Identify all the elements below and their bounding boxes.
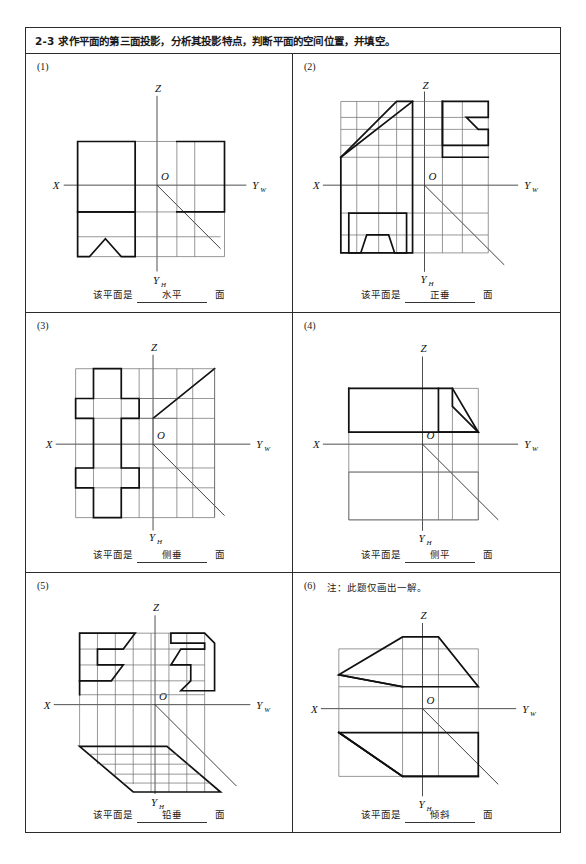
axis-label-yw: Y — [256, 438, 264, 450]
answer-suffix: 面 — [215, 807, 225, 821]
answer-suffix: 面 — [483, 807, 493, 821]
axis-label-x: X — [312, 438, 321, 450]
axis-label-z: Z — [421, 343, 428, 355]
projection-drawing-6: X Z O Y W Y H — [293, 573, 560, 832]
axis-label-x: X — [45, 438, 54, 450]
axis-label-x: X — [310, 702, 319, 714]
axis-label-z: Z — [151, 341, 158, 353]
exercise-panel-4[interactable]: (4) X Z O Y W Y H — [293, 313, 560, 572]
axis-label-yw: Y — [522, 702, 530, 714]
axis-label-yw-sub: W — [264, 445, 271, 453]
projection-drawing-1: X Z O Y W Y H — [26, 54, 292, 312]
axis-label-yw: Y — [252, 179, 260, 191]
projection-drawing-3: X Z O Y W Y H — [26, 313, 292, 571]
axis-label-yw: Y — [524, 438, 532, 450]
axis-label-x: X — [43, 698, 52, 710]
axis-label-yh: Y — [421, 273, 429, 285]
axis-label-yw-sub: W — [260, 186, 267, 194]
exercise-panel-6[interactable]: (6) 注：此题仅画出一解。 X Z O Y W Y H — [293, 573, 560, 832]
answer-line-6: 该平面是 倾斜 面 — [293, 807, 560, 823]
answer-blank[interactable]: 铅垂 — [137, 807, 207, 823]
axis-label-yh: Y — [419, 532, 427, 544]
exercise-grid: (1) X Z O Y W Y H — [26, 54, 560, 832]
exercise-panel-2[interactable]: (2) X Z O Y W Y H — [293, 54, 560, 313]
worksheet-page: 2-3 求作平面的第三面投影，分析其投影特点，判断平面的空间位置，并填空。 (1… — [25, 27, 561, 833]
axis-label-yh-sub: H — [156, 539, 163, 547]
answer-prefix: 该平面是 — [93, 547, 133, 561]
axis-label-origin: O — [427, 693, 435, 705]
answer-prefix: 该平面是 — [93, 287, 133, 301]
axis-label-yw: Y — [524, 179, 532, 191]
axis-label-yw-sub: W — [264, 705, 271, 713]
axis-label-yh: Y — [149, 532, 157, 544]
axis-label-origin: O — [428, 170, 436, 182]
axis-label-z: Z — [155, 82, 162, 94]
axis-label-origin: O — [427, 430, 435, 442]
answer-suffix: 面 — [483, 547, 493, 561]
answer-suffix: 面 — [483, 287, 493, 301]
axis-label-yh: Y — [151, 796, 159, 808]
answer-prefix: 该平面是 — [361, 807, 401, 821]
answer-suffix: 面 — [215, 547, 225, 561]
axis-label-z: Z — [153, 601, 160, 613]
answer-blank[interactable]: 倾斜 — [405, 807, 475, 823]
answer-line-2: 该平面是 正垂 面 — [293, 287, 560, 303]
answer-blank[interactable]: 正垂 — [405, 287, 475, 303]
answer-line-3: 该平面是 侧垂 面 — [26, 547, 292, 563]
axis-label-origin: O — [161, 170, 169, 182]
exercise-panel-3[interactable]: (3) X Z O Y W Y H — [26, 313, 293, 572]
answer-prefix: 该平面是 — [361, 547, 401, 561]
axis-label-yw-sub: W — [532, 186, 539, 194]
exercise-panel-5[interactable]: (5) X Z O Y W Y H — [26, 573, 293, 832]
axis-label-z: Z — [421, 609, 428, 621]
answer-prefix: 该平面是 — [361, 287, 401, 301]
axis-label-x: X — [312, 179, 321, 191]
worksheet-header: 2-3 求作平面的第三面投影，分析其投影特点，判断平面的空间位置，并填空。 — [26, 28, 560, 54]
answer-prefix: 该平面是 — [93, 807, 133, 821]
answer-line-5: 该平面是 铅垂 面 — [26, 807, 292, 823]
axis-label-x: X — [52, 179, 61, 191]
answer-suffix: 面 — [215, 287, 225, 301]
axis-label-origin: O — [157, 430, 165, 442]
axis-label-yw-sub: W — [530, 709, 537, 717]
answer-line-1: 该平面是 水平 面 — [26, 287, 292, 303]
axis-label-yw: Y — [256, 698, 264, 710]
projection-drawing-5: X Z O Y W Y H — [26, 573, 292, 832]
answer-line-4: 该平面是 侧平 面 — [293, 547, 560, 563]
header-title: 2-3 求作平面的第三面投影，分析其投影特点，判断平面的空间位置，并填空。 — [26, 33, 395, 48]
answer-blank[interactable]: 侧平 — [405, 547, 475, 563]
axis-label-yh: Y — [153, 274, 161, 286]
answer-blank[interactable]: 水平 — [137, 287, 207, 303]
axis-label-z: Z — [423, 79, 430, 91]
answer-blank[interactable]: 侧垂 — [137, 547, 207, 563]
axis-label-origin: O — [159, 689, 167, 701]
axis-label-yw-sub: W — [532, 445, 539, 453]
exercise-panel-1[interactable]: (1) X Z O Y W Y H — [26, 54, 293, 313]
projection-drawing-4: X Z O Y W Y H — [293, 313, 560, 571]
projection-drawing-2: X Z O Y W Y H — [293, 54, 560, 312]
